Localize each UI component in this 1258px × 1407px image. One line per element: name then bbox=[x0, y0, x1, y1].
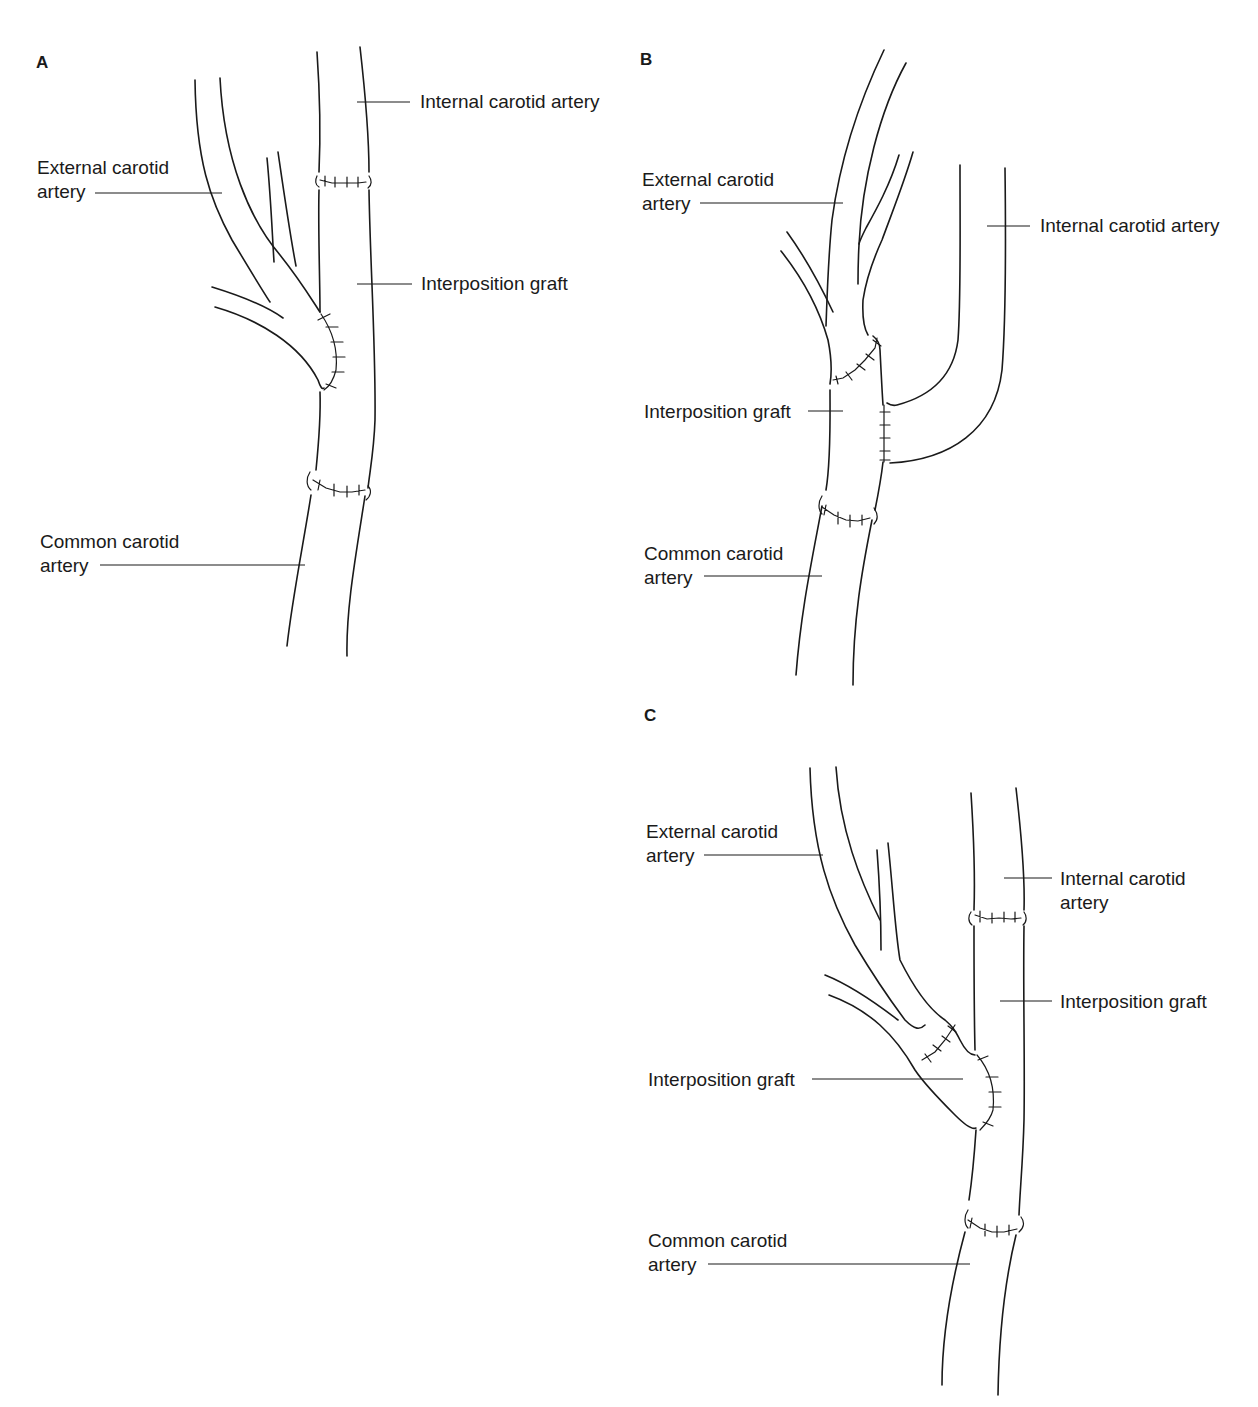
label-c-interposition-graft-left: Interposition graft bbox=[648, 1068, 795, 1092]
label-b-interposition-graft: Interposition graft bbox=[644, 400, 791, 424]
label-b-external-carotid-line1: External carotid bbox=[642, 168, 774, 192]
label-a-common-carotid-line1: Common carotid bbox=[40, 530, 179, 554]
label-a-external-carotid-line1: External carotid bbox=[37, 156, 169, 180]
diagram-artwork bbox=[0, 0, 1258, 1407]
label-c-internal-carotid-line2: artery bbox=[1060, 891, 1109, 915]
panel-letter-a: A bbox=[36, 53, 48, 73]
label-b-common-carotid-line1: Common carotid bbox=[644, 542, 783, 566]
label-a-external-carotid-line2: artery bbox=[37, 180, 86, 204]
panel-c-drawing bbox=[810, 767, 1026, 1395]
leader-lines bbox=[95, 102, 1052, 1264]
label-a-common-carotid-line2: artery bbox=[40, 554, 89, 578]
label-c-common-carotid-line1: Common carotid bbox=[648, 1229, 787, 1253]
label-a-internal-carotid: Internal carotid artery bbox=[420, 90, 600, 114]
label-b-common-carotid-line2: artery bbox=[644, 566, 693, 590]
label-c-interposition-graft-right: Interposition graft bbox=[1060, 990, 1207, 1014]
label-b-internal-carotid: Internal carotid artery bbox=[1040, 214, 1220, 238]
label-c-external-carotid-line2: artery bbox=[646, 844, 695, 868]
panel-letter-b: B bbox=[640, 50, 652, 70]
label-c-external-carotid-line1: External carotid bbox=[646, 820, 778, 844]
panel-b-drawing bbox=[781, 50, 1006, 685]
label-a-interposition-graft: Interposition graft bbox=[421, 272, 568, 296]
label-c-common-carotid-line2: artery bbox=[648, 1253, 697, 1277]
label-b-external-carotid-line2: artery bbox=[642, 192, 691, 216]
panel-letter-c: C bbox=[644, 706, 656, 726]
label-c-internal-carotid-line1: Internal carotid bbox=[1060, 867, 1186, 891]
